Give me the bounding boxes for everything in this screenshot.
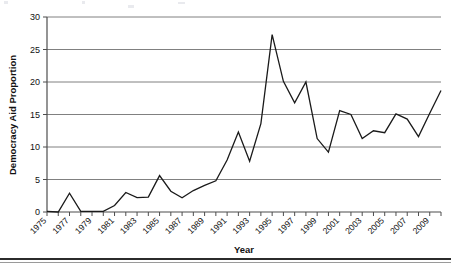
x-tick-label: 1993: [230, 215, 251, 236]
x-axis-title: Year: [234, 244, 254, 255]
y-tick-label: 15: [30, 110, 40, 120]
y-tick-label: 20: [30, 77, 40, 87]
x-tick-label: 1979: [73, 215, 94, 236]
page-divider-rule-shadow: [0, 262, 451, 263]
y-tick-labels-group: 051015202530: [30, 12, 40, 217]
y-tick-label: 0: [35, 207, 40, 217]
x-tick-label: 2005: [366, 215, 387, 236]
x-tick-label: 1981: [95, 215, 116, 236]
chart-figure: 051015202530 197519771979198119831985198…: [0, 0, 451, 272]
x-tick-label: 1983: [118, 215, 139, 236]
y-tick-label: 30: [30, 12, 40, 22]
y-axis-title: Democracy Aid Proportion: [7, 55, 18, 175]
x-tick-label: 1975: [28, 215, 49, 236]
data-series-line: [47, 35, 441, 212]
x-tick-label: 2003: [343, 215, 364, 236]
y-tick-label: 25: [30, 45, 40, 55]
x-tick-label: 1991: [208, 215, 229, 236]
line-chart: 051015202530 197519771979198119831985198…: [0, 0, 451, 258]
x-tick-label: 1987: [163, 215, 184, 236]
gridlines-group: [47, 17, 441, 180]
x-tick-label: 1999: [298, 215, 319, 236]
x-tick-label: 2009: [411, 215, 432, 236]
y-tick-label: 10: [30, 142, 40, 152]
x-tick-label: 2001: [321, 215, 342, 236]
y-tick-label: 5: [35, 175, 40, 185]
x-tick-label: 1995: [253, 215, 274, 236]
x-tick-label: 1977: [50, 215, 71, 236]
x-tick-labels-group: 1975197719791981198319851987198919911993…: [28, 215, 431, 236]
x-tick-label: 1997: [275, 215, 296, 236]
x-tick-label: 2007: [388, 215, 409, 236]
x-tick-label: 1989: [185, 215, 206, 236]
page-divider-rule: [0, 258, 451, 260]
x-tick-label: 1985: [140, 215, 161, 236]
